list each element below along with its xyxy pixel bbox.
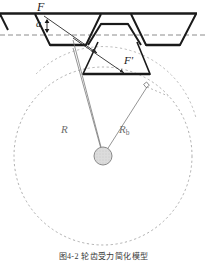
force-vector-group [44,16,124,147]
label-force-F-prime: F' [124,55,133,66]
force-F-vector [44,16,97,53]
label-base-radius-main: R [119,123,126,135]
label-base-radius-subscript: b [126,128,130,137]
tooth-space-right [131,14,196,45]
base-circle-group [14,47,196,245]
label-radius-R: R [61,124,68,135]
secondary-dashed-arc [36,47,196,118]
gear-force-model-figure: F a F' R Rb 图4-2 轮齿受力简化模型 [0,0,207,261]
diagram-canvas [0,0,207,261]
label-force-F: F [37,1,44,13]
hub-circle [94,147,112,165]
tooth-profile-group [0,14,207,75]
alpha-angle-arrow-down [45,29,50,33]
figure-caption: 图4-2 轮齿受力简化模型 [0,250,207,261]
right-angle-marker [144,82,150,88]
label-base-radius-Rb: Rb [119,124,129,135]
tooth-flank-left-edge [0,14,8,30]
label-pressure-angle: a [36,19,41,29]
tooth-middle [88,24,141,45]
line-of-action-extension [73,40,101,147]
radius-Rb-line [103,87,147,156]
